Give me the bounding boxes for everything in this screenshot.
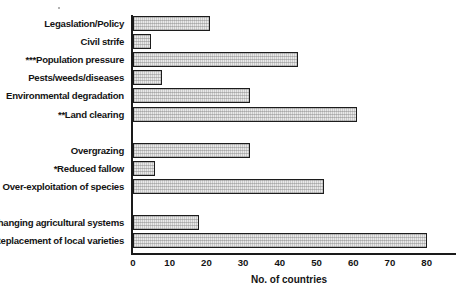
bar-row xyxy=(133,52,298,67)
category-label: Over-exploitation of species xyxy=(3,179,125,194)
bar-row xyxy=(133,34,151,49)
bar xyxy=(133,70,162,85)
x-axis-tick-label: 60 xyxy=(348,257,359,268)
bar-row xyxy=(133,215,199,230)
category-label: ***Population pressure xyxy=(26,52,124,67)
category-label: Changing agricultural systems xyxy=(0,215,124,230)
bar xyxy=(133,143,250,158)
category-label: **Land clearing xyxy=(58,107,124,122)
bar-chart: Legaslation/PolicyCivil strife***Populat… xyxy=(0,0,473,297)
bar xyxy=(133,34,151,49)
x-axis-tick-label: 40 xyxy=(274,257,285,268)
category-label: Pests/weeds/diseases xyxy=(28,70,124,85)
bar-row xyxy=(133,161,155,176)
category-label: Environmental degradation xyxy=(6,88,124,103)
category-label: Replacement of local varieties xyxy=(0,233,124,248)
bar-row xyxy=(133,107,357,122)
bar xyxy=(133,107,357,122)
x-axis-tick-label: 50 xyxy=(311,257,322,268)
category-label: Civil strife xyxy=(81,34,124,49)
x-axis-tick-label: 10 xyxy=(164,257,175,268)
bar-row xyxy=(133,233,427,248)
bar xyxy=(133,16,210,31)
bar-row xyxy=(133,143,250,158)
bar-row xyxy=(133,179,324,194)
x-axis-title: No. of countries xyxy=(133,274,445,285)
bar-row xyxy=(133,88,250,103)
x-axis-tick-label: 70 xyxy=(385,257,396,268)
x-axis-tick-label: 0 xyxy=(130,257,135,268)
x-axis-tick-label: 20 xyxy=(201,257,212,268)
x-axis-tick-list: 01020304050607080 xyxy=(133,257,463,273)
bar xyxy=(133,179,324,194)
bar-row xyxy=(133,16,210,31)
scan-artifact-speck xyxy=(58,7,60,9)
bar xyxy=(133,161,155,176)
x-axis-tick-label: 80 xyxy=(421,257,432,268)
bar xyxy=(133,52,298,67)
bar xyxy=(133,88,250,103)
bar xyxy=(133,233,427,248)
bar-list xyxy=(133,16,463,253)
category-label: Legaslation/Policy xyxy=(44,16,124,31)
x-axis-tick-label: 30 xyxy=(238,257,249,268)
category-label-list: Legaslation/PolicyCivil strife***Populat… xyxy=(0,16,128,253)
bar xyxy=(133,215,199,230)
category-label: Overgrazing xyxy=(71,143,124,158)
x-axis-line xyxy=(131,253,456,255)
bar-row xyxy=(133,70,162,85)
category-label: *Reduced fallow xyxy=(54,161,124,176)
